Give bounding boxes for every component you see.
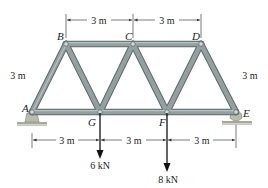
dim-label-gf: 3 m (126, 135, 142, 146)
dim-label-cd: 3 m (159, 15, 175, 26)
node-label-e: E (242, 107, 250, 119)
node-label-d: D (191, 30, 200, 42)
load-label-6kn: 6 kN (90, 160, 110, 171)
dim-label-ag: 3 m (59, 135, 75, 146)
truss-diagram: 3 m 3 m 3 m 3 m 3 m 3 m 3 m (0, 0, 268, 188)
load-label-8kn: 8 kN (158, 174, 178, 185)
truss-svg: 3 m 3 m 3 m 3 m 3 m 3 m 3 m (0, 0, 268, 188)
dim-label-fe: 3 m (194, 135, 210, 146)
node-label-b: B (57, 30, 64, 42)
bottom-dimension: 3 m 3 m 3 m (32, 125, 236, 148)
node-label-c: C (125, 30, 133, 42)
dim-label-right-height: 3 m (242, 70, 258, 81)
top-dimension: 3 m 3 m (66, 14, 201, 38)
node-label-f: F (158, 116, 166, 128)
dim-label-bc: 3 m (91, 15, 107, 26)
dim-label-left-height: 3 m (10, 70, 26, 81)
truss-members (32, 43, 236, 113)
node-label-g: G (88, 116, 96, 128)
node-label-a: A (21, 102, 29, 114)
